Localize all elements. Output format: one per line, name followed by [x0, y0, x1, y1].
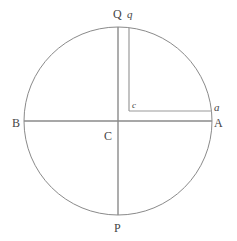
figure-canvas [0, 0, 237, 241]
label-A: A [214, 117, 223, 129]
label-C: C [104, 130, 112, 142]
label-c: c [132, 101, 136, 110]
label-a: a [214, 102, 220, 113]
label-P: P [114, 222, 121, 234]
label-q: q [127, 9, 133, 20]
label-Q: Q [113, 8, 122, 20]
geometry-figure: Q q a A c B C P [0, 0, 237, 241]
label-B: B [12, 117, 20, 129]
